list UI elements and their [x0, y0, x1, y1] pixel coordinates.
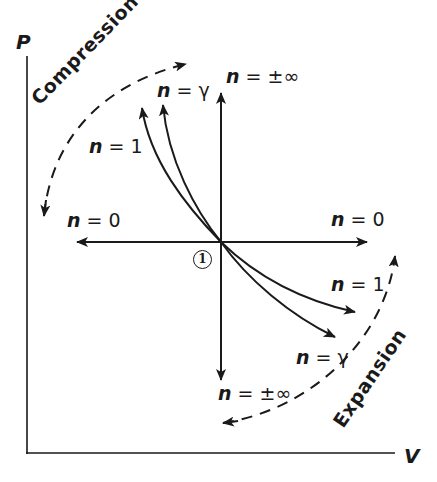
label-n0-left: n = 0	[67, 211, 121, 230]
label-ninf-bottom: n = ±∞	[218, 384, 291, 403]
expansion-arc-tail	[223, 421, 238, 423]
process-ngamma-up	[163, 105, 221, 242]
state-point-1: 1	[193, 250, 212, 269]
compression-arc-tail	[44, 200, 46, 216]
p-axis-label: P	[16, 32, 31, 52]
label-n1-bottom: n = 1	[331, 275, 385, 294]
v-axis-label: V	[404, 446, 419, 466]
label-n0-right: n = 0	[331, 210, 385, 229]
label-ninf-top: n = ±∞	[226, 67, 299, 86]
label-n1-top: n = 1	[89, 137, 143, 156]
label-ngamma-bottom: n = γ	[296, 348, 349, 367]
label-ngamma-top: n = γ	[157, 81, 210, 100]
